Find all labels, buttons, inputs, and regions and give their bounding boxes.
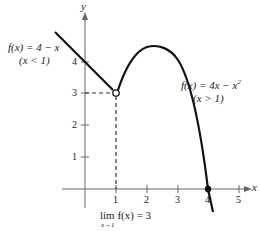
graph-canvas <box>0 0 260 231</box>
y-tick-label: 1 <box>72 152 77 162</box>
left-piece-formula: f(x) = 4 − x <box>8 42 60 53</box>
curve-left-piece <box>55 32 113 90</box>
curve-right-piece <box>118 46 213 212</box>
y-tick-label: 3 <box>72 88 77 98</box>
x-tick-label: 2 <box>144 195 149 205</box>
x-tick-label: 3 <box>175 195 180 205</box>
left-piece-domain: (x < 1) <box>19 55 50 66</box>
x-tick-label: 1 <box>113 195 118 205</box>
x-axis-arrow-icon <box>244 186 252 192</box>
right-piece-domain: (x > 1) <box>193 93 224 104</box>
right-piece-exponent: 2 <box>237 78 241 86</box>
limit-subscript: x→1 <box>101 222 115 229</box>
right-piece-formula: f(x) = 4x − x2 <box>181 79 241 91</box>
open-point-marker <box>113 90 119 96</box>
limit-expression: lim f(x) = 3 <box>100 210 151 221</box>
x-axis-label: x <box>252 182 257 193</box>
right-piece-formula-text: f(x) = 4x − x <box>181 79 237 91</box>
y-axis-label: y <box>81 1 86 12</box>
x-tick-label: 4 <box>205 195 210 205</box>
y-tick-label: 2 <box>72 120 77 130</box>
x-tick-label: 5 <box>236 195 241 205</box>
closed-point-marker <box>205 186 211 192</box>
y-tick-label: 4 <box>72 57 77 67</box>
y-axis-arrow-icon <box>82 12 88 20</box>
